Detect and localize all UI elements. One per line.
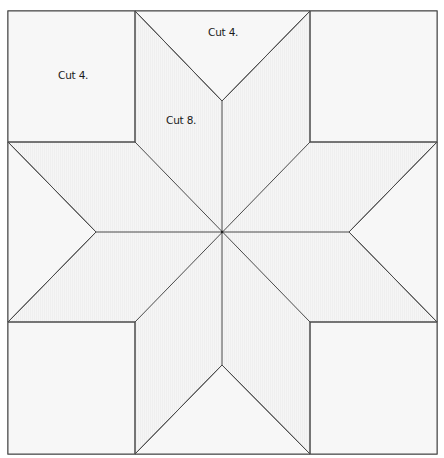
- corner-square-top-right: [310, 11, 437, 142]
- center-point: [221, 231, 223, 233]
- label-side-triangle: Cut 4.: [208, 26, 238, 38]
- corner-square-bottom-right: [310, 322, 437, 454]
- label-diamond: Cut 8.: [166, 114, 196, 126]
- corner-square-bottom-left: [8, 322, 135, 454]
- label-corner-square: Cut 4.: [58, 69, 88, 81]
